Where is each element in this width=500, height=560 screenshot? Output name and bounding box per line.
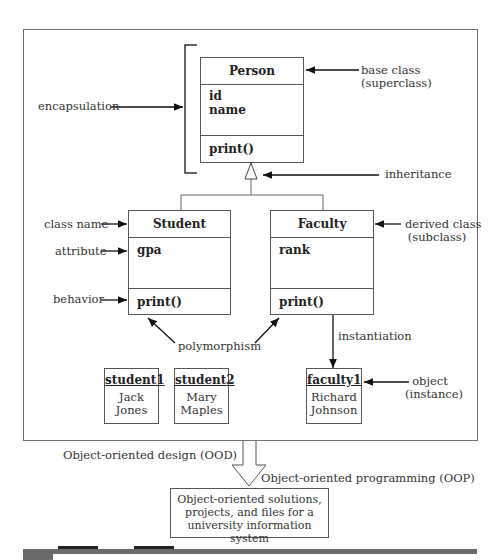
- class-faculty-method: print(): [271, 289, 373, 316]
- label-object-line2: (instance): [405, 388, 455, 401]
- solutions-line1: Object-oriented solutions,: [171, 493, 328, 506]
- label-attribute: attribute: [55, 245, 106, 258]
- object-student1-name: student1: [105, 374, 158, 387]
- object-faculty1: faculty1 Richard Johnson: [306, 368, 362, 424]
- label-derived-class-line2: (subclass): [405, 231, 469, 244]
- object-faculty1-value-2: Johnson: [307, 404, 361, 417]
- class-person-method: print(): [201, 136, 303, 163]
- object-faculty1-name: faculty1: [307, 374, 361, 387]
- label-polymorphism: polymorphism: [178, 340, 261, 353]
- label-object: object (instance): [405, 375, 455, 401]
- solutions-line3: university information system: [171, 519, 328, 545]
- label-instantiation: instantiation: [338, 330, 412, 343]
- label-encapsulation: encapsulation: [38, 100, 119, 113]
- class-person-attr-name: name: [209, 103, 303, 117]
- label-ood: Object-oriented design (OOD): [63, 449, 237, 462]
- class-person-name: Person: [201, 58, 303, 85]
- label-inheritance: inheritance: [385, 168, 452, 181]
- class-student: Student gpa print(): [128, 210, 231, 315]
- object-student1: student1 Jack Jones: [104, 368, 159, 424]
- class-student-attr-gpa: gpa: [129, 238, 230, 289]
- class-person-attr-id: id: [209, 89, 303, 103]
- label-base-class-line2: (superclass): [361, 77, 417, 90]
- class-faculty: Faculty rank print(): [270, 210, 374, 315]
- label-derived-class: derived class (subclass): [405, 218, 469, 244]
- object-student2-name: student2: [175, 374, 228, 387]
- object-student1-value-2: Jones: [105, 404, 158, 417]
- label-behavior: behavior: [53, 293, 104, 306]
- class-faculty-name: Faculty: [271, 211, 373, 238]
- label-base-class: base class (superclass): [361, 64, 417, 90]
- object-student2-value-2: Maples: [175, 404, 228, 417]
- class-student-name: Student: [129, 211, 230, 238]
- inheritance-triangle: [245, 163, 257, 179]
- solutions-line2: projects, and files for a: [171, 506, 328, 519]
- object-student2: student2 Mary Maples: [174, 368, 229, 424]
- caption-bar: [23, 549, 477, 554]
- class-faculty-attr-rank: rank: [271, 238, 373, 289]
- solutions-box: Object-oriented solutions, projects, and…: [170, 488, 329, 538]
- label-class-name: class name: [44, 218, 108, 231]
- class-person: Person id name print(): [200, 57, 304, 163]
- class-student-method: print(): [129, 289, 230, 316]
- encapsulation-bracket: [185, 45, 197, 173]
- label-oop: Object-oriented programming (OOP): [261, 472, 475, 485]
